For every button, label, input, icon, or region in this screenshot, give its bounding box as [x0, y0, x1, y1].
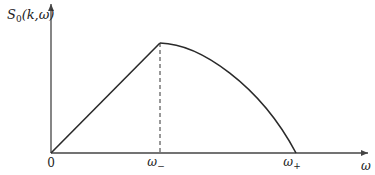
omega-minus-label: ω−	[147, 155, 164, 171]
curve-linear-segment	[51, 43, 160, 153]
y-axis-label: S0(k,ω)	[7, 7, 54, 24]
diagram-canvas: S0(k,ω) 0 ω− ω+ ω	[0, 0, 375, 175]
x-axis-label: ω	[361, 159, 371, 173]
curve-descending-segment	[160, 43, 296, 153]
origin-label: 0	[47, 156, 55, 170]
omega-plus-label: ω+	[283, 155, 300, 171]
